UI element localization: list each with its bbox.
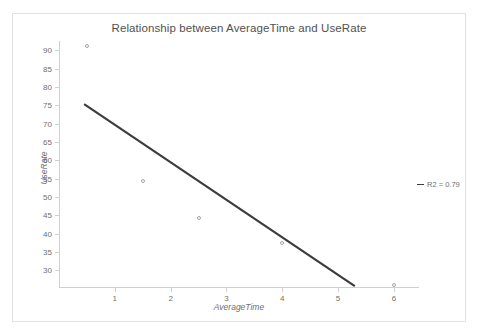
plot-area: 30354045505560657075808590 123456 bbox=[59, 41, 419, 288]
x-tick-label: 5 bbox=[336, 294, 340, 303]
scatter-point bbox=[85, 44, 89, 48]
x-tick-label: 4 bbox=[280, 294, 284, 303]
x-tick-mark bbox=[282, 288, 283, 292]
trendline-layer bbox=[59, 41, 419, 288]
x-tick-mark bbox=[226, 288, 227, 292]
y-tick-label: 30 bbox=[43, 266, 52, 275]
y-tick-label: 65 bbox=[43, 137, 52, 146]
y-tick-label: 60 bbox=[43, 156, 52, 165]
legend-line-marker bbox=[417, 184, 424, 185]
y-tick-label: 55 bbox=[43, 174, 52, 183]
trendline bbox=[84, 104, 355, 286]
x-tick-mark bbox=[115, 288, 116, 292]
legend-label: R2 = 0.79 bbox=[427, 180, 460, 189]
chart-container: Relationship between AverageTime and Use… bbox=[12, 13, 466, 322]
y-tick-label: 45 bbox=[43, 211, 52, 220]
legend: R2 = 0.79 bbox=[417, 180, 460, 189]
scatter-point bbox=[141, 179, 145, 183]
y-tick-label: 80 bbox=[43, 82, 52, 91]
y-tick-label: 90 bbox=[43, 46, 52, 55]
x-tick-label: 2 bbox=[168, 294, 172, 303]
scatter-point bbox=[392, 283, 396, 287]
x-axis-title: AverageTime bbox=[59, 302, 419, 312]
x-tick-mark bbox=[171, 288, 172, 292]
y-tick-label: 40 bbox=[43, 229, 52, 238]
y-tick-label: 75 bbox=[43, 101, 52, 110]
y-tick-label: 35 bbox=[43, 248, 52, 257]
x-tick-mark bbox=[338, 288, 339, 292]
x-tick-label: 1 bbox=[113, 294, 117, 303]
x-tick-mark bbox=[394, 288, 395, 292]
y-tick-label: 85 bbox=[43, 64, 52, 73]
y-tick-label: 50 bbox=[43, 192, 52, 201]
scatter-point bbox=[197, 216, 201, 220]
x-tick-label: 3 bbox=[224, 294, 228, 303]
x-tick-label: 6 bbox=[392, 294, 396, 303]
y-tick-label: 70 bbox=[43, 119, 52, 128]
chart-title: Relationship between AverageTime and Use… bbox=[13, 22, 465, 34]
